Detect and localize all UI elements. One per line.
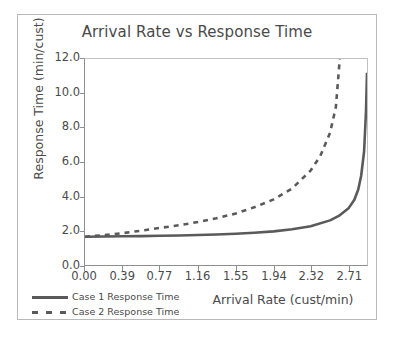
chart-title: Arrival Rate vs Response Time (18, 23, 376, 41)
x-tick-mark (159, 266, 160, 271)
y-tick-mark (80, 93, 84, 94)
legend-item[interactable]: Case 2 Response Time (30, 304, 190, 319)
x-tick-mark (349, 266, 350, 271)
x-tick-mark (274, 266, 275, 271)
chart-frame: Arrival Rate vs Response Time Response T… (17, 14, 377, 320)
y-axis-tick-labels: 0.02.04.06.08.010.012.0 (42, 58, 80, 266)
y-tick-label: 4.0 (46, 191, 80, 203)
y-tick-label: 8.0 (46, 121, 80, 133)
x-axis-title: Arrival Rate (cust/min) (188, 292, 378, 307)
y-tick-mark (80, 127, 84, 128)
legend-label: Case 1 Response Time (72, 292, 179, 302)
x-tick-mark (311, 266, 312, 271)
y-tick-label: 10.0 (46, 87, 80, 99)
legend-solid-line-icon (30, 292, 68, 302)
legend-item[interactable]: Case 1 Response Time (30, 289, 190, 304)
y-tick-mark (80, 58, 84, 59)
series-line-2 (85, 59, 340, 237)
y-tick-mark (80, 197, 84, 198)
y-tick-label: 6.0 (46, 156, 80, 168)
plot-svg (85, 59, 367, 265)
x-tick-mark (198, 266, 199, 271)
y-tick-label: 12.0 (46, 52, 80, 64)
x-tick-label: 2.71 (327, 271, 371, 283)
x-tick-mark (122, 266, 123, 271)
series-line-1 (85, 73, 367, 237)
chart-legend: Case 1 Response TimeCase 2 Response Time (30, 289, 190, 319)
y-tick-label: 2.0 (46, 225, 80, 237)
y-tick-mark (80, 231, 84, 232)
legend-label: Case 2 Response Time (72, 307, 179, 317)
y-tick-mark (80, 162, 84, 163)
plot-area (84, 58, 368, 266)
x-tick-mark (84, 266, 85, 271)
x-axis-tick-labels: 0.000.390.771.161.551.942.322.71 (84, 271, 368, 287)
legend-dashed-line-icon (30, 307, 68, 317)
series-layer (85, 59, 367, 237)
x-tick-mark (236, 266, 237, 271)
